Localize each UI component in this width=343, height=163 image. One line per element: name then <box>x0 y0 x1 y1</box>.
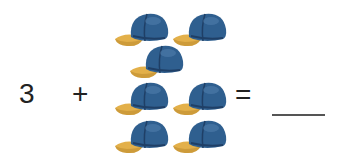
baseball-cap-icon <box>113 78 173 118</box>
baseball-cap-icon <box>171 78 231 118</box>
plus-sign: + <box>72 78 88 110</box>
addend-number: 3 <box>19 78 35 110</box>
baseball-cap-icon <box>128 41 188 81</box>
baseball-cap-icon <box>171 116 231 156</box>
equals-sign: = <box>235 79 251 111</box>
baseball-cap-icon <box>113 116 173 156</box>
answer-blank[interactable] <box>272 114 325 116</box>
